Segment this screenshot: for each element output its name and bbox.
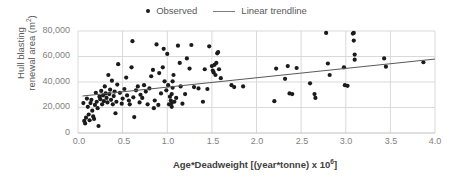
data-point <box>232 85 236 89</box>
data-point <box>205 87 209 91</box>
plot-area <box>0 0 453 179</box>
data-point <box>131 95 135 99</box>
data-point <box>192 85 196 89</box>
data-point <box>172 100 176 104</box>
data-point <box>174 96 178 100</box>
data-point <box>352 38 356 42</box>
data-point <box>115 82 119 86</box>
data-point <box>112 94 116 98</box>
data-point <box>89 98 93 102</box>
data-point <box>176 44 180 48</box>
data-point <box>326 61 330 65</box>
data-point <box>105 100 109 104</box>
data-point <box>189 43 193 47</box>
data-point <box>83 121 87 125</box>
data-point <box>108 88 112 92</box>
data-point <box>170 92 174 96</box>
data-point <box>154 42 158 46</box>
data-point <box>328 73 332 77</box>
gridlines <box>78 31 435 133</box>
data-point <box>187 67 191 71</box>
data-point <box>109 98 113 102</box>
data-point <box>283 77 287 81</box>
data-point <box>324 31 328 35</box>
data-point <box>127 98 131 102</box>
data-point <box>216 50 220 54</box>
data-point <box>111 102 115 106</box>
data-point <box>102 99 106 103</box>
data-point <box>125 93 129 97</box>
data-point <box>92 117 96 121</box>
data-point <box>161 65 165 69</box>
data-point <box>88 118 92 122</box>
data-point <box>130 39 134 43</box>
data-point <box>136 84 140 88</box>
data-point <box>295 66 299 70</box>
data-point <box>124 75 128 79</box>
data-point <box>104 96 108 100</box>
data-point <box>110 79 114 83</box>
scatter-chart: Observed Linear trendline Hull blasting … <box>0 0 453 179</box>
data-point <box>213 73 217 77</box>
data-point <box>96 106 100 110</box>
data-point <box>81 101 85 105</box>
data-point <box>86 105 90 109</box>
data-point <box>106 73 110 77</box>
data-point <box>171 73 175 77</box>
data-point <box>114 100 118 104</box>
data-point <box>384 65 388 69</box>
data-points <box>81 31 425 128</box>
data-point <box>159 91 163 95</box>
trendline <box>82 59 435 96</box>
data-point <box>84 116 88 120</box>
data-point <box>116 62 120 66</box>
data-point <box>156 103 160 107</box>
data-point <box>274 67 278 71</box>
data-point <box>185 56 189 60</box>
data-point <box>149 74 153 78</box>
data-point <box>286 64 290 68</box>
data-point <box>95 100 99 104</box>
data-point <box>241 84 245 88</box>
data-point <box>219 76 223 80</box>
data-point <box>201 100 205 104</box>
data-point <box>128 102 132 106</box>
data-point <box>183 92 187 96</box>
data-point <box>99 89 103 93</box>
data-point <box>165 52 169 56</box>
data-point <box>162 79 166 83</box>
data-point <box>87 112 91 116</box>
data-point <box>345 84 349 88</box>
data-point <box>132 115 136 119</box>
data-point <box>179 84 183 88</box>
data-point <box>120 102 124 106</box>
data-point <box>137 100 141 104</box>
data-point <box>290 92 294 96</box>
data-point <box>153 98 157 102</box>
data-point <box>144 89 148 93</box>
data-point <box>196 86 200 90</box>
data-point <box>146 102 150 106</box>
data-point <box>308 81 312 85</box>
data-point <box>98 97 102 101</box>
data-point <box>152 106 156 110</box>
data-point <box>164 88 168 92</box>
data-point <box>178 61 182 65</box>
data-point <box>214 61 218 65</box>
data-point <box>122 87 126 91</box>
data-point <box>217 67 221 71</box>
data-point <box>313 96 317 100</box>
data-point <box>162 47 166 51</box>
data-point <box>90 109 94 113</box>
data-point <box>382 56 386 60</box>
data-point <box>96 124 100 128</box>
data-point <box>353 52 357 56</box>
data-point <box>207 44 211 48</box>
data-point <box>121 96 125 100</box>
data-point <box>170 105 174 109</box>
data-point <box>272 99 276 103</box>
data-point <box>203 67 207 71</box>
data-point <box>151 68 155 72</box>
data-point <box>113 111 117 115</box>
data-point <box>353 58 357 62</box>
